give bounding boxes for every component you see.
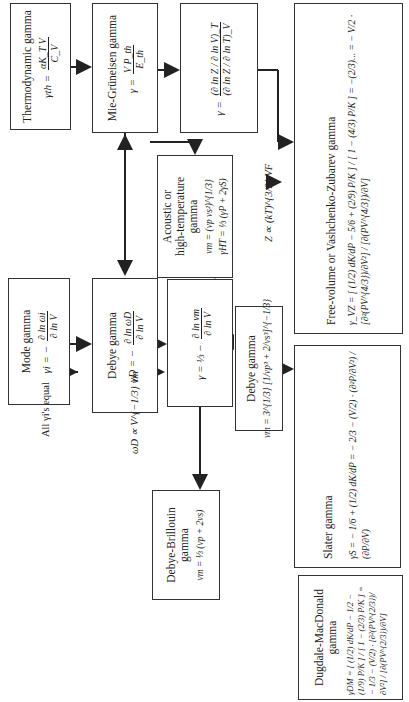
eq-lhs: γ = ⅓ − [194,344,206,380]
slater-eq-part-a: γS = − 1/6 + (1/2) dK/dP = − 2/3 − [348,419,358,559]
mie-gruneisen-gamma-equation: γ = V P_thE_th [122,43,145,94]
dugdale-macdonald-gamma-box: Dugdale-MacDonald gamma γDM = [ (1/2) dK… [298,575,403,700]
eq-denominator: ∂ ln V [202,308,213,339]
eq-denominator: ∂ ln V [48,311,59,341]
dugdale-macdonald-title: Dugdale-MacDonald gamma [313,580,339,695]
acoustic-gamma-title-line1: Acoustic or [161,190,174,243]
debye-vm-gamma-box: Debye gamma vm = 3^{1/3} [1/vp³ + 2/vs³]… [235,306,283,431]
partition-function-relation-label: Z ∝ (kT)^{3/2} VF [262,164,274,242]
eq-denominator: E_th [134,45,145,74]
eq-numerator: ∂ ln ωi [36,311,48,341]
eq-denominator: ∂ ln V [134,311,145,345]
eq-numerator: V P_th [122,45,134,74]
eq-lhs: γ = [213,101,225,116]
eq-lhs: γi = − [40,346,52,374]
debye-vm-gamma-title: Debye gamma [245,335,258,402]
thermodynamic-gamma-title: Thermodynamic gamma [21,10,34,123]
debye-gamma-title: Debye gamma [106,312,119,379]
mode-gamma-title: Mode gamma [20,310,33,374]
partition-function-gamma-equation: γ = (∂ ln Z / ∂ ln V)_T(∂ ln Z / ∂ ln T)… [209,20,232,115]
acoustic-vm-equation: vm = (vp vs²)^{1/3} [203,179,216,253]
velocity-gamma-box: γ = ⅓ − ∂ ln vm∂ ln V [167,279,233,407]
partition-function-gamma-box: γ = (∂ ln Z / ∂ ln V)_T(∂ ln Z / ∂ ln T)… [180,3,258,133]
debye-vm-equation: vm = 3^{1/3} [1/vp³ + 2/vs³]^{−1/3} [261,299,274,438]
mie-gruneisen-gamma-box: Mie-Grüneisen gamma γ = V P_thE_th [92,3,158,133]
slater-gamma-title: Slater gamma [322,495,335,559]
acoustic-gamma-title-line3: gamma [187,200,200,234]
all-gammas-equal-label: All γi's equal [40,382,51,437]
eq-numerator: ∂ ln vm [190,308,202,339]
acoustic-gamma-equation: γHT = ⅓ (γP + 2γS) [217,178,230,254]
debye-brillouin-equation: vm = ⅓ (vp + 2vs) [194,510,207,581]
slater-gamma-box: Slater gamma γS = − 1/6 + (1/2) dK/dP = … [294,345,401,568]
free-volume-gamma-box: Free-volume or Vashchenko-Zubarev gamma … [294,3,403,334]
free-volume-gamma-title: Free-volume or Vashchenko-Zubarev gamma [325,117,338,325]
eq-numerator: ∂ ln ωD [122,311,134,345]
debye-gamma-box: Debye gamma γD = − ∂ ln ωD∂ ln V [92,278,158,413]
debye-brillouin-title-line1: Debye-Brillouin [165,507,178,582]
acoustic-gamma-box: Acoustic or high-temperature gamma vm = … [157,155,233,278]
omega-volume-relation-label: ωD ∝ V^{−1/3} vm [128,371,140,454]
mode-gamma-box: Mode gamma γi = − ∂ ln ωi∂ ln V [8,278,70,405]
mode-gamma-equation: γi = − ∂ ln ωi∂ ln V [36,309,59,373]
slater-gamma-equation: γS = − 1/6 + (1/2) dK/dP = − 2/3 − (V/2)… [347,350,373,559]
velocity-gamma-equation: γ = ⅓ − ∂ ln vm∂ ln V [190,306,213,380]
free-volume-gamma-equation: γ_VZ = [ (1/2) dK/dP − 5/6 + (2/9) P/K ]… [346,8,372,325]
debye-brillouin-title-line2: gamma [178,528,191,562]
thermodynamic-gamma-box: Thermodynamic gamma γth = αK_T VC_V [10,3,71,130]
eq-numerator: (∂ ln Z / ∂ ln V)_T [209,22,221,96]
acoustic-gamma-title-line2: high-temperature [174,177,187,256]
eq-denominator: C_V [49,37,60,70]
thermodynamic-gamma-equation: γth = αK_T VC_V [37,35,60,98]
eq-denominator: (∂ ln Z / ∂ ln T)_V [221,22,232,96]
eq-lhs: γth = [41,75,53,98]
diagram-canvas: Thermodynamic gamma γth = αK_T VC_V Mie-… [0,0,409,702]
eq-lhs: γ = [126,79,138,94]
debye-brillouin-gamma-box: Debye-Brillouin gamma vm = ⅓ (vp + 2vs) [152,490,220,600]
dugdale-macdonald-equation: γDM = [ (1/2) dK/dP − 1/2 − (1/9) P/K ] … [345,580,389,695]
mie-gruneisen-gamma-title: Mie-Grüneisen gamma [106,15,119,121]
eq-numerator: αK_T V [37,37,49,70]
